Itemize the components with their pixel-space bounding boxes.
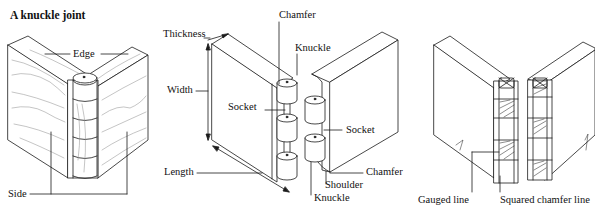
figure-marking-out — [434, 36, 595, 192]
label-thickness: Thickness — [163, 28, 206, 40]
label-socket-right: Socket — [346, 124, 375, 136]
label-edge: Edge — [73, 48, 95, 60]
label-chamfer-top: Chamfer — [279, 9, 316, 21]
label-knuckle-top: Knuckle — [295, 42, 331, 54]
label-side: Side — [8, 188, 27, 200]
label-gauged-line: Gauged line — [418, 194, 469, 206]
diagram-drawing — [0, 0, 595, 211]
label-length: Length — [164, 166, 194, 178]
label-squared-chamfer-line: Squared chamfer line — [500, 194, 590, 206]
label-socket-left: Socket — [228, 101, 257, 113]
label-shoulder: Shoulder — [325, 179, 363, 191]
label-knuckle-bottom: Knuckle — [314, 192, 350, 204]
label-width: Width — [167, 84, 193, 96]
label-chamfer-bottom: Chamfer — [366, 166, 403, 178]
knuckle-joint-diagram: A knuckle joint — [0, 0, 595, 211]
